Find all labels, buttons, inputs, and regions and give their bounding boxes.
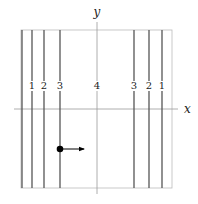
center-label: 4	[94, 80, 100, 91]
line-label: 3	[57, 80, 63, 91]
y-axis-label: y	[93, 5, 101, 19]
line-label: 2	[41, 80, 47, 91]
line-label: 1	[159, 80, 165, 91]
line-label: 3	[131, 80, 137, 91]
line-label: 1	[29, 80, 35, 91]
line-label: 2	[146, 80, 152, 91]
diagram: 1233214 y x	[0, 0, 198, 204]
line-labels: 1233214	[29, 80, 166, 91]
particle-point	[57, 146, 64, 153]
x-axis-label: x	[184, 102, 191, 116]
